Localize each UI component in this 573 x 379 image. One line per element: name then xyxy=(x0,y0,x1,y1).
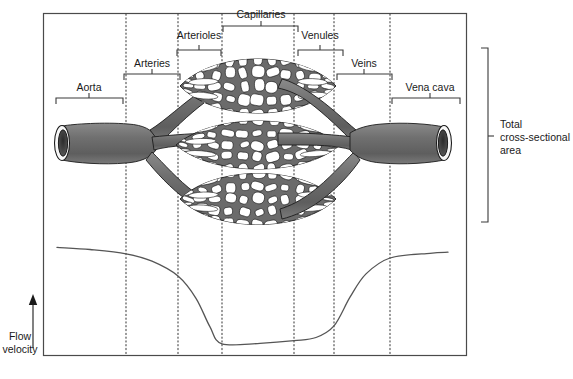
label-arterioles: Arterioles xyxy=(177,29,221,41)
label-vena-cava: Vena cava xyxy=(405,81,454,93)
capillary-cell xyxy=(280,69,292,80)
aorta-lumen xyxy=(58,130,67,156)
capillary-cell xyxy=(283,153,293,160)
capillary-cell xyxy=(195,214,209,221)
label-group-venules: Venules xyxy=(298,29,343,56)
flow-velocity-label-line-2: velocity xyxy=(2,343,38,355)
capillary-cell xyxy=(322,71,335,79)
capillary-cell xyxy=(254,78,265,91)
label-group-arteries: Arteries xyxy=(124,57,180,80)
capillary-cell xyxy=(235,130,248,138)
label-veins: Veins xyxy=(351,57,377,69)
right-bracket-label-line-2: cross-sectional xyxy=(500,131,570,143)
label-group-veins: Veins xyxy=(337,57,392,80)
capillary-cell xyxy=(294,106,305,112)
flow-velocity-label-line-1: Flow xyxy=(9,330,32,342)
capillary-cell xyxy=(268,171,277,179)
label-group-capillaries: Capillaries xyxy=(223,8,298,32)
capillary-cell xyxy=(267,131,276,138)
capillary-cell xyxy=(238,54,248,66)
capillary-cell xyxy=(280,94,293,106)
capillary-cell xyxy=(269,115,279,126)
capillary-cell xyxy=(249,93,264,106)
label-arteries: Arteries xyxy=(134,57,170,69)
capillary-bed-mesh-1 xyxy=(181,54,335,120)
vascular-tree xyxy=(55,54,452,231)
capillary-cell xyxy=(221,141,234,150)
label-group-aorta: Aorta xyxy=(56,81,123,104)
capillary-cell xyxy=(241,182,250,191)
capillary-cell xyxy=(266,96,277,105)
capillary-cell xyxy=(311,213,321,220)
capillary-cell xyxy=(223,207,233,216)
bracket-capillaries xyxy=(223,26,298,32)
y-axis-group: Flowvelocity xyxy=(2,294,38,355)
capillary-cell xyxy=(280,184,289,191)
capillary-cell xyxy=(178,152,187,159)
figure-canvas: AortaArteriesArteriolesCapillariesVenule… xyxy=(0,0,573,379)
vena-cava-lumen xyxy=(438,130,447,156)
capillary-cell xyxy=(239,108,249,119)
capillary-cell xyxy=(182,207,191,213)
capillary-cell xyxy=(265,81,278,94)
flow-velocity-curve xyxy=(57,247,448,345)
right-bracket-label-line-1: Total xyxy=(500,118,522,130)
bracket-total-cross-sectional-area xyxy=(481,48,488,222)
capillary-cell xyxy=(239,117,248,124)
capillary-cell xyxy=(251,65,265,78)
label-aorta: Aorta xyxy=(76,81,101,93)
vena-cava-trunk xyxy=(350,123,444,164)
label-group-arterioles: Arterioles xyxy=(177,29,221,56)
bracket-arterioles xyxy=(177,50,221,56)
vascular-flow-diagram: AortaArteriesArteriolesCapillariesVenule… xyxy=(0,0,573,379)
bracket-veins xyxy=(337,74,392,80)
label-venules: Venules xyxy=(301,29,338,41)
capillary-cell xyxy=(184,202,192,206)
capillary-cell xyxy=(182,71,194,79)
capillary-cell xyxy=(225,183,235,194)
capillary-bed-1 xyxy=(180,54,336,120)
capillary-cell xyxy=(237,152,249,161)
bracket-vena-cava xyxy=(392,98,460,104)
capillary-cell xyxy=(221,151,233,159)
capillary-cell xyxy=(253,54,262,65)
label-capillaries: Capillaries xyxy=(236,8,285,20)
capillary-cell xyxy=(225,67,235,78)
right-bracket-label-line-3: area xyxy=(500,144,521,156)
bracket-venules xyxy=(298,50,343,56)
flow-velocity-arrow-head xyxy=(29,294,37,305)
capillary-cell xyxy=(325,207,333,212)
right-bracket-group: Totalcross-sectionalarea xyxy=(481,48,570,222)
aorta-trunk xyxy=(62,123,156,164)
label-group-vena-cava: Vena cava xyxy=(392,81,460,104)
capillary-cell xyxy=(227,170,235,177)
bracket-aorta xyxy=(56,98,123,104)
bracket-arteries xyxy=(124,74,180,80)
